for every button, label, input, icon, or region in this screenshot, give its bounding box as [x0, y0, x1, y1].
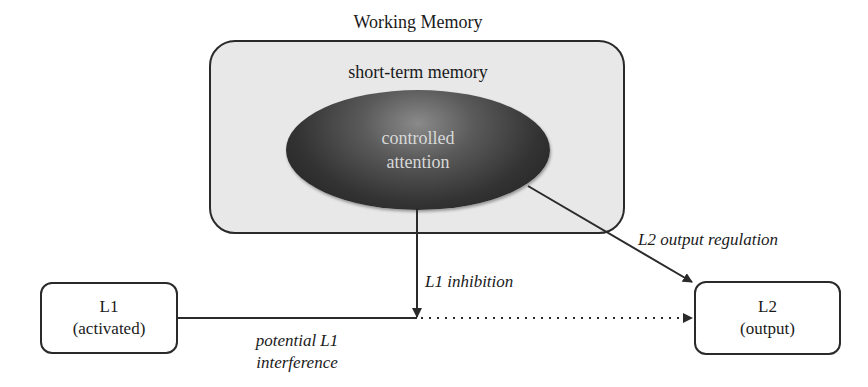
interference-label-line1: potential L1 — [222, 330, 372, 352]
interference-label: potential L1 interference — [222, 330, 372, 374]
l1-subtitle: (activated) — [42, 318, 176, 340]
l2-title: L2 — [696, 296, 839, 318]
inhibition-label: L1 inhibition — [425, 272, 513, 292]
l2-node: L2 (output) — [694, 281, 841, 355]
l2-subtitle: (output) — [696, 318, 839, 340]
regulation-label: L2 output regulation — [638, 230, 778, 250]
l1-title: L1 — [42, 296, 176, 318]
l1-node: L1 (activated) — [40, 282, 178, 354]
interference-label-line2: interference — [222, 352, 372, 374]
